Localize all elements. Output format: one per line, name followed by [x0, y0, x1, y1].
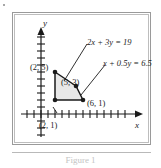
figure-container: y x (2, 5) (5, 3) (6, 1) (2, 1) 2x + 3y …	[0, 0, 161, 168]
vertex-label-2-1: (2, 1)	[39, 121, 57, 130]
x-axis	[21, 110, 143, 118]
figure-caption: Figure 1	[0, 155, 161, 165]
plot-frame: y x (2, 5) (5, 3) (6, 1) (2, 1) 2x + 3y …	[12, 12, 151, 145]
x-axis-label: x	[135, 121, 139, 130]
coordinate-plot	[13, 13, 150, 144]
print-speck-artifact	[3, 4, 5, 6]
vertex-dot-2-5	[53, 70, 58, 75]
vertex-dot-2-1	[53, 98, 58, 103]
caption-strip: Figure 1	[0, 152, 161, 168]
equation-label-upper: 2x + 3y = 19	[87, 38, 132, 47]
caption-rule	[12, 152, 151, 153]
vertex-label-6-1: (6, 1)	[87, 99, 105, 108]
equation-label-lower: x + 0.5y = 6.5	[103, 59, 152, 68]
leader-line-equation-upper	[64, 44, 87, 81]
y-axis-label: y	[43, 19, 47, 28]
leader-line-equation-lower	[81, 65, 105, 95]
vertex-label-5-3: (5, 3)	[61, 78, 79, 87]
vertex-label-2-5: (2, 5)	[30, 63, 48, 72]
vertex-dot-6-1	[81, 98, 86, 103]
